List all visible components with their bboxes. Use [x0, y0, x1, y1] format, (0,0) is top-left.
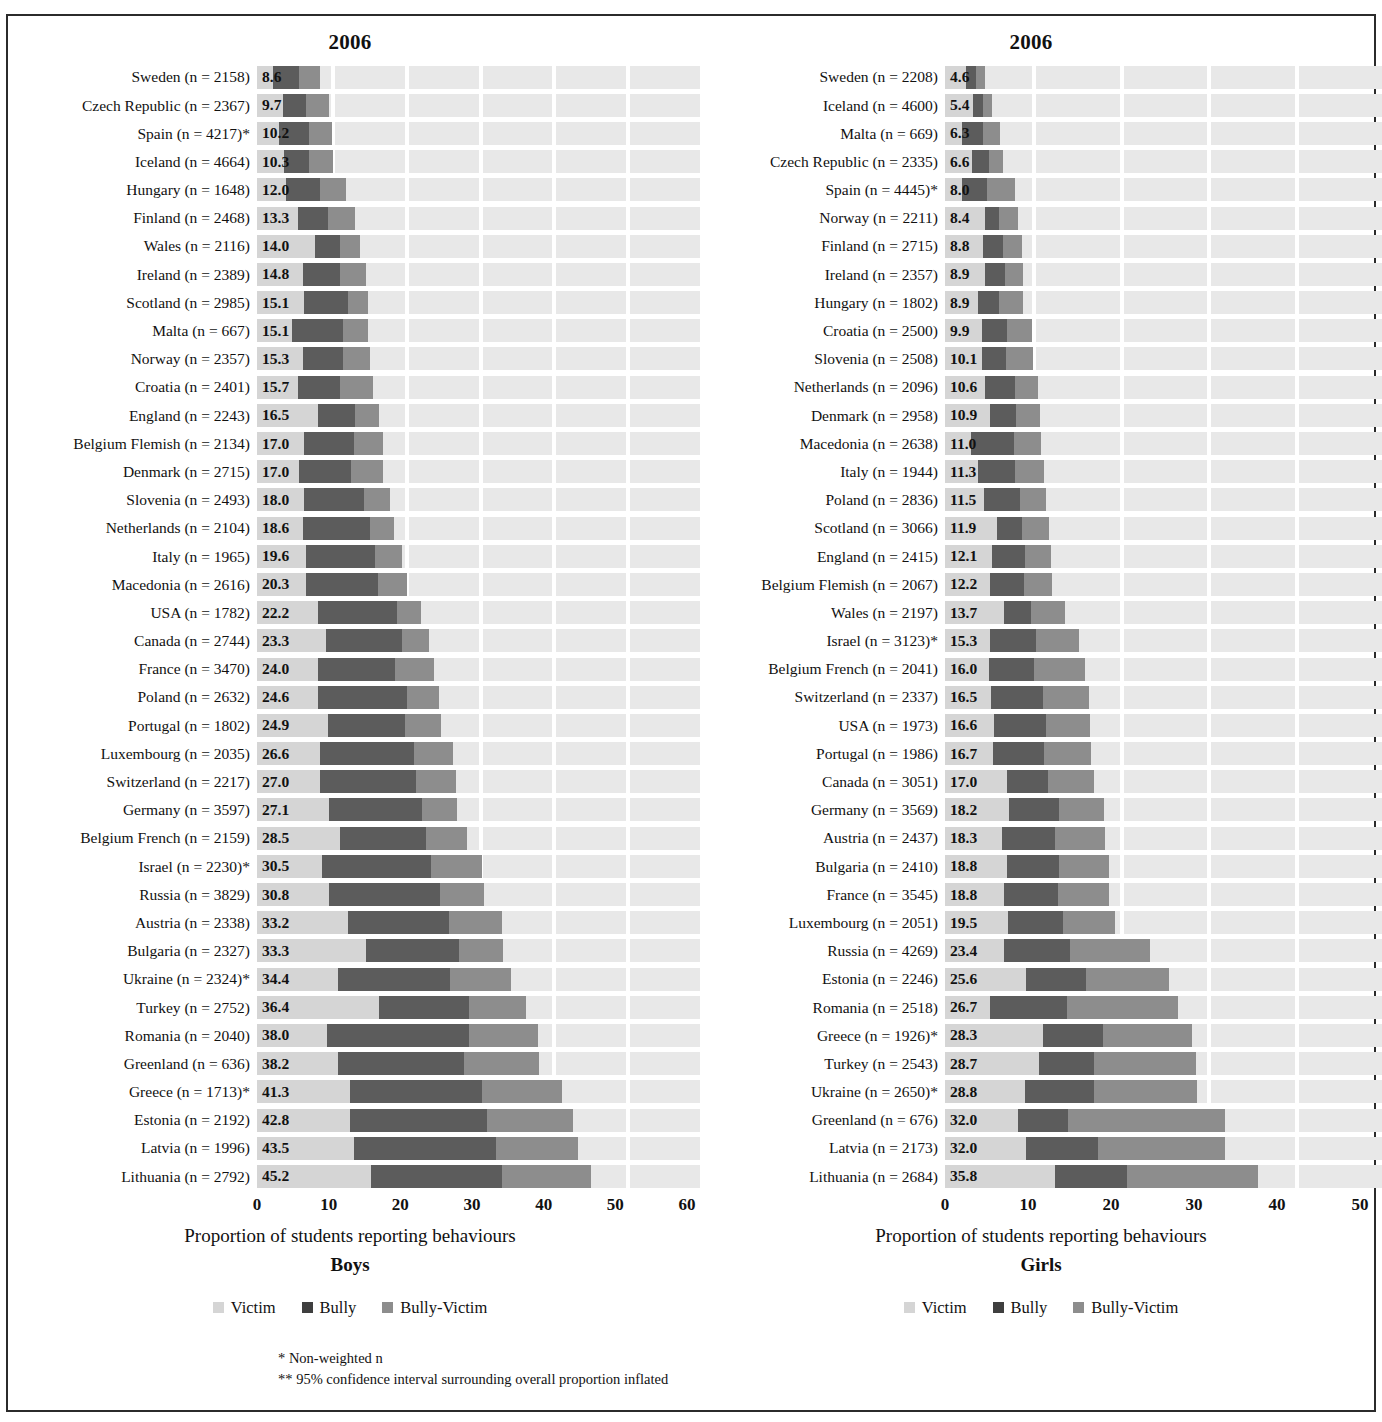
segment-bully — [318, 686, 407, 709]
axis-tick-label: 20 — [392, 1195, 409, 1215]
bar-value-label: 12.2 — [950, 577, 977, 593]
segment-bully-victim — [1127, 1165, 1258, 1188]
segment-bully — [1004, 939, 1070, 962]
segment-bully — [283, 94, 306, 117]
bar-value-label: 25.6 — [950, 971, 977, 987]
bar-value-label: 15.1 — [262, 295, 289, 311]
bar-track: 26.6 — [257, 742, 700, 765]
bar-row: Belgium Flemish (n = 2067)12.2 — [700, 570, 1382, 598]
bar-track: 16.7 — [945, 742, 1382, 765]
bar-value-label: 10.3 — [262, 154, 289, 170]
bar-track: 22.2 — [257, 601, 700, 624]
bar-value-label: 17.0 — [950, 774, 977, 790]
legend-item-victim: Victim — [213, 1298, 276, 1318]
bar-row: Czech Republic (n = 2335)6.6 — [700, 148, 1382, 176]
bar-row: Ukraine (n = 2324)*34.4 — [0, 965, 700, 993]
segment-bully — [318, 601, 398, 624]
bar-row: Germany (n = 3569)18.2 — [700, 796, 1382, 824]
legend-item-bully-victim: Bully-Victim — [382, 1298, 487, 1318]
segment-bully — [990, 404, 1015, 427]
bar-row: Italy (n = 1965)19.6 — [0, 542, 700, 570]
gridlines — [945, 150, 1382, 173]
bar-row: Israel (n = 3123)*15.3 — [700, 627, 1382, 655]
segment-bully-victim — [309, 122, 333, 145]
segment-bully-victim — [1055, 827, 1105, 850]
bar-value-label: 28.7 — [950, 1056, 977, 1072]
axis-tick-label: 50 — [607, 1195, 624, 1215]
category-label: Hungary (n = 1802) — [700, 295, 945, 311]
segment-bully-victim — [431, 855, 482, 878]
bar-track: 24.6 — [257, 686, 700, 709]
segment-bully — [304, 432, 355, 455]
legend-label-victim: Victim — [231, 1298, 276, 1318]
category-label: Macedonia (n = 2616) — [0, 577, 257, 593]
segment-bully-victim — [1022, 517, 1049, 540]
segment-bully-victim — [1044, 742, 1091, 765]
segment-bully — [318, 658, 396, 681]
segment-bully-victim — [320, 178, 346, 201]
segment-bully — [303, 347, 344, 370]
segment-bully-victim — [1016, 404, 1040, 427]
segment-bully — [298, 376, 341, 399]
bar-value-label: 28.3 — [950, 1028, 977, 1044]
bar-row: Austria (n = 2437)18.3 — [700, 824, 1382, 852]
segment-bully-victim — [402, 629, 429, 652]
bar-row: Hungary (n = 1648)12.0 — [0, 176, 700, 204]
segment-bully-victim — [1103, 1024, 1192, 1047]
bar-value-label: 10.1 — [950, 351, 977, 367]
segment-bully-victim — [989, 150, 1003, 173]
segment-bully — [1018, 1109, 1068, 1132]
bar-track: 16.5 — [945, 686, 1382, 709]
boys-x-axis-label: Proportion of students reporting behavio… — [0, 1225, 700, 1247]
bar-row: Romania (n = 2040)38.0 — [0, 1021, 700, 1049]
category-label: Latvia (n = 2173) — [700, 1140, 945, 1156]
bar-value-label: 45.2 — [262, 1169, 289, 1185]
segment-bully — [984, 488, 1020, 511]
bar-track: 15.7 — [257, 376, 700, 399]
category-label: Romania (n = 2040) — [0, 1028, 257, 1044]
bar-row: Ukraine (n = 2650)*28.8 — [700, 1078, 1382, 1106]
bar-value-label: 11.9 — [950, 520, 976, 536]
segment-bully-victim — [364, 488, 390, 511]
bar-row: Canada (n = 3051)17.0 — [700, 768, 1382, 796]
bar-value-label: 24.9 — [262, 718, 289, 734]
bar-value-label: 19.6 — [262, 549, 289, 565]
segment-bully — [354, 1137, 496, 1160]
segment-bully — [994, 714, 1046, 737]
category-label: Norway (n = 2357) — [0, 351, 257, 367]
bar-row: Estonia (n = 2192)42.8 — [0, 1106, 700, 1134]
category-label: Poland (n = 2632) — [0, 689, 257, 705]
bar-row: Netherlands (n = 2104)18.6 — [0, 514, 700, 542]
bar-value-label: 18.0 — [262, 492, 289, 508]
bar-row: Malta (n = 669)6.3 — [700, 119, 1382, 147]
segment-bully-victim — [450, 968, 511, 991]
segment-bully-victim — [422, 798, 457, 821]
category-label: France (n = 3470) — [0, 661, 257, 677]
axis-tick-label: 50 — [1352, 1195, 1369, 1215]
segment-bully-victim — [1086, 968, 1169, 991]
bar-track: 15.3 — [257, 347, 700, 370]
category-label: Belgium Flemish (n = 2134) — [0, 436, 257, 452]
legend-item-victim: Victim — [904, 1298, 967, 1318]
segment-bully-victim — [987, 178, 1015, 201]
bar-value-label: 18.8 — [950, 859, 977, 875]
category-label: Wales (n = 2197) — [700, 605, 945, 621]
bar-value-label: 36.4 — [262, 1000, 289, 1016]
segment-bully — [1043, 1024, 1103, 1047]
segment-bully-victim — [1094, 1080, 1197, 1103]
segment-bully — [1039, 1052, 1094, 1075]
category-label: Iceland (n = 4664) — [0, 154, 257, 170]
bar-row: Wales (n = 2197)13.7 — [700, 599, 1382, 627]
bar-track: 8.4 — [945, 207, 1382, 230]
bar-row: Italy (n = 1944)11.3 — [700, 458, 1382, 486]
category-label: Russia (n = 4269) — [700, 943, 945, 959]
bar-row: Switzerland (n = 2337)16.5 — [700, 683, 1382, 711]
segment-bully — [304, 291, 348, 314]
bar-track: 9.7 — [257, 94, 700, 117]
legend-label-bully-victim: Bully-Victim — [1091, 1298, 1178, 1318]
category-label: Italy (n = 1944) — [700, 464, 945, 480]
segment-bully — [320, 770, 416, 793]
category-label: Belgium Flemish (n = 2067) — [700, 577, 945, 593]
segment-bully-victim — [351, 460, 383, 483]
category-label: Malta (n = 667) — [0, 323, 257, 339]
